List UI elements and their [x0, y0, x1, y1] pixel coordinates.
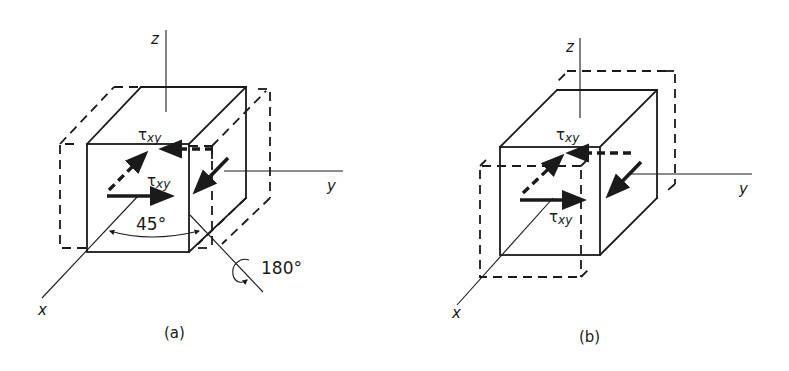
panel-a-tau-front-label: τxy: [147, 172, 171, 191]
panel-a-z-label: z: [150, 30, 160, 48]
panel-a-rotation-label: 180°: [261, 258, 302, 278]
panel-a-dashed-outline-left: [60, 87, 141, 248]
panel-b-shear-arrow-dashed-diag: [523, 157, 561, 193]
panel-b-z-label: z: [565, 38, 575, 56]
panel-a-rotation-axis: [190, 215, 263, 292]
panel-b-x-axis: [457, 198, 553, 305]
panel-b-tau-front-label: τxy: [549, 208, 573, 227]
panel-a-tau-top-label: τxy: [138, 126, 162, 145]
panel-b-y-label: y: [738, 180, 749, 198]
panel-a-angle-label: 45°: [136, 214, 166, 234]
panel-a-y-label: y: [326, 177, 337, 195]
panel-a-dashed-outline-right: [189, 89, 270, 248]
panel-a-shear-arrow-dashed-diag: [109, 154, 145, 190]
shear-stress-cube-diagram: z y x τxy τxy 45°: [0, 0, 789, 371]
panel-a-x-label: x: [37, 301, 47, 319]
panel-b-shear-arrow-right-face: [609, 162, 641, 195]
panel-b-tau-top-label: τxy: [556, 126, 580, 145]
panel-b: z y x τxy: [451, 38, 752, 346]
panel-b-x-label: x: [451, 304, 461, 322]
panel-a-x-axis: [42, 196, 138, 298]
panel-a: z y x τxy τxy 45°: [37, 30, 343, 342]
panel-b-caption: (b): [579, 328, 600, 346]
panel-a-caption: (a): [164, 324, 185, 342]
